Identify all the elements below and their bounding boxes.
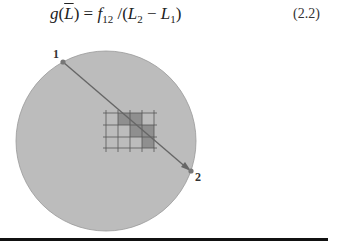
page-rule [0, 238, 328, 241]
circle-figure: 1 2 [0, 0, 338, 243]
point-2-marker [188, 168, 193, 173]
point-1-label: 1 [53, 47, 59, 61]
point-2-label: 2 [195, 170, 201, 184]
point-1-marker [60, 59, 65, 64]
